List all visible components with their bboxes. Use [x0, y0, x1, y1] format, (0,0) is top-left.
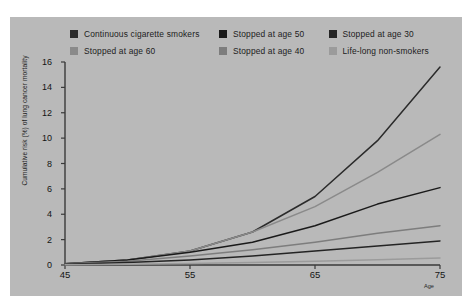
y-tick-label: 16 [32, 57, 52, 67]
y-tick-label: 4 [32, 209, 52, 219]
x-tick-label: 55 [175, 269, 205, 280]
chart-canvas [10, 17, 462, 296]
series-line [65, 188, 440, 264]
x-axis-label: Age [424, 283, 434, 289]
y-tick-label: 8 [32, 159, 52, 169]
chart-figure: Continuous cigarette smokers Stopped at … [10, 17, 462, 296]
y-tick-label: 6 [32, 184, 52, 194]
y-axis-label: Cumulative risk (%) of lung cancer morta… [21, 46, 28, 196]
x-axis-tick-labels: 45556575 [10, 269, 462, 285]
y-tick-label: 2 [32, 235, 52, 245]
x-tick-label: 75 [425, 269, 455, 280]
y-tick-label: 12 [32, 108, 52, 118]
series-line [65, 67, 440, 264]
x-tick-label: 45 [50, 269, 80, 280]
series-line [65, 134, 440, 263]
y-tick-label: 14 [32, 82, 52, 92]
x-tick-label: 65 [300, 269, 330, 280]
y-axis-tick-labels: 0246810121416 [32, 17, 52, 296]
plot-area: Cumulative risk (%) of lung cancer morta… [10, 17, 462, 296]
y-tick-label: 10 [32, 133, 52, 143]
